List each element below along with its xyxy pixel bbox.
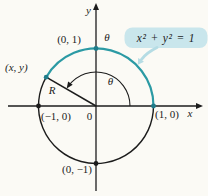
central-angle-label: θ xyxy=(108,75,114,87)
point-dot-bottom xyxy=(94,161,99,166)
point-dot-left xyxy=(36,104,41,109)
point-label-generic: (x, y) xyxy=(5,61,28,74)
point-label-bottom: (0, −1) xyxy=(62,163,92,176)
arc-angle-label: θ xyxy=(104,31,110,43)
origin-label: 0 xyxy=(87,110,93,122)
point-label-top: (0, 1) xyxy=(57,33,81,46)
x-axis-label: x xyxy=(187,107,193,119)
point-label-left: (−1, 0) xyxy=(41,110,71,123)
unit-circle-figure: x² + y² = 1 y x 0 R θ θ (0, 1) (x, y) (−… xyxy=(0,0,208,196)
radius-label: R xyxy=(48,84,56,96)
point-dot-top xyxy=(94,46,99,51)
point-dot-generic xyxy=(44,75,49,80)
y-axis-label: y xyxy=(85,4,91,16)
equation-text: x² + y² = 1 xyxy=(136,32,196,45)
point-label-right: (1, 0) xyxy=(155,108,179,121)
